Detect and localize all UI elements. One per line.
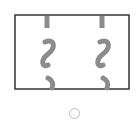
radio-button[interactable] [69,108,80,119]
strand-figure [0,0,139,125]
figure-frame [15,15,129,89]
